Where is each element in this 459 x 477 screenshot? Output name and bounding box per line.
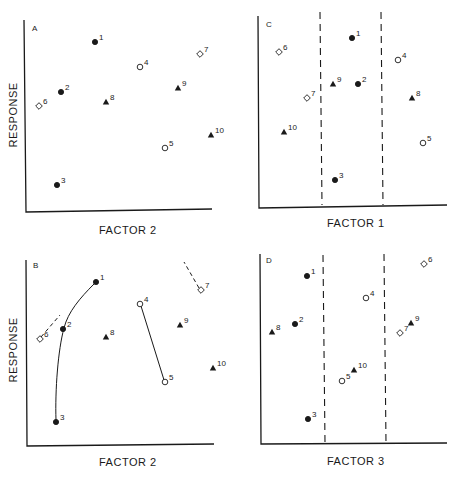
point-5-open-circle-icon <box>420 140 426 146</box>
point-label: 3 <box>61 176 66 185</box>
point-label: 5 <box>169 373 174 382</box>
point-1-filled-circle-icon <box>304 273 309 278</box>
point-8-filled-triangle-icon <box>103 334 109 340</box>
panel-a-label: A <box>32 24 38 33</box>
panel-a-axes <box>24 20 212 212</box>
point-label: 7 <box>204 45 209 54</box>
point-9-filled-triangle-icon <box>177 322 183 328</box>
point-7-open-diamond-icon <box>397 330 404 337</box>
point-label: 3 <box>60 413 65 422</box>
point-label: 4 <box>144 58 149 67</box>
point-8-filled-triangle-icon <box>409 95 415 101</box>
point-label: 1 <box>100 273 105 282</box>
point-2-filled-circle-icon <box>355 81 360 86</box>
point-label: 1 <box>356 29 361 38</box>
point-2-filled-circle-icon <box>58 89 63 94</box>
point-label: 1 <box>99 33 104 42</box>
point-5-open-circle-icon <box>162 145 168 151</box>
panel-b-dash-7 <box>184 262 199 288</box>
point-6-open-diamond-icon <box>36 103 43 110</box>
panel-c: C FACTOR 1 12345678910 <box>258 12 447 229</box>
panel-c-partition-1 <box>320 12 322 205</box>
point-3-filled-circle-icon <box>54 182 59 187</box>
point-label: 3 <box>312 410 317 419</box>
point-label: 10 <box>358 361 367 370</box>
point-3-filled-circle-icon <box>332 177 337 182</box>
point-3-filled-circle-icon <box>305 416 310 421</box>
point-label: 5 <box>427 134 432 143</box>
point-label: 5 <box>169 139 174 148</box>
point-label: 9 <box>415 314 420 323</box>
point-2-filled-circle-icon <box>60 326 65 331</box>
point-1-filled-circle-icon <box>93 279 98 284</box>
point-6-open-diamond-icon <box>276 49 283 56</box>
panel-d-partition-2 <box>384 254 386 443</box>
point-label: 9 <box>337 75 342 84</box>
panel-b: B FACTOR 2 RESPONSE 12345678910 <box>7 260 226 468</box>
point-5-open-circle-icon <box>162 379 168 385</box>
point-label: 6 <box>283 43 288 52</box>
panel-d-xlabel: FACTOR 3 <box>327 455 385 467</box>
point-label: 4 <box>370 289 375 298</box>
point-label: 8 <box>276 323 281 332</box>
point-4-open-circle-icon <box>137 64 143 70</box>
panel-d-points: 12345678910 <box>269 255 433 422</box>
point-4-open-circle-icon <box>395 57 401 63</box>
point-10-filled-triangle-icon <box>210 365 216 371</box>
panel-c-points: 12345678910 <box>276 29 432 183</box>
point-10-filled-triangle-icon <box>208 132 214 138</box>
point-9-filled-triangle-icon <box>408 320 414 326</box>
point-label: 8 <box>110 93 115 102</box>
panel-d: D FACTOR 3 12345678910 <box>260 254 447 467</box>
point-2-filled-circle-icon <box>292 321 297 326</box>
point-1-filled-circle-icon <box>349 35 354 40</box>
panel-a-ylabel: RESPONSE <box>7 82 19 147</box>
point-label: 4 <box>402 51 407 60</box>
panel-b-line-4-5 <box>141 306 164 380</box>
point-8-filled-triangle-icon <box>269 329 275 335</box>
panel-b-points: 12345678910 <box>37 273 227 425</box>
panel-b-xlabel: FACTOR 2 <box>99 456 157 468</box>
point-label: 6 <box>428 255 433 264</box>
panel-c-partition-2 <box>381 12 383 205</box>
point-4-open-circle-icon <box>363 295 369 301</box>
panel-d-label: D <box>266 256 272 265</box>
panel-a-xlabel: FACTOR 2 <box>99 224 157 236</box>
point-9-filled-triangle-icon <box>175 85 181 91</box>
point-1-filled-circle-icon <box>92 39 97 44</box>
point-label: 2 <box>362 75 367 84</box>
point-8-filled-triangle-icon <box>103 99 109 105</box>
point-label: 8 <box>416 89 421 98</box>
panel-d-partition-1 <box>323 255 325 443</box>
point-label: 8 <box>110 328 115 337</box>
point-label: 1 <box>311 267 316 276</box>
point-3-filled-circle-icon <box>53 419 58 424</box>
point-label: 10 <box>288 123 297 132</box>
point-label: 2 <box>299 315 304 324</box>
point-label: 6 <box>44 330 49 339</box>
point-7-open-diamond-icon <box>197 51 204 58</box>
panel-b-axes <box>26 260 214 446</box>
point-label: 6 <box>43 97 48 106</box>
panel-b-curve-1-2-3 <box>56 284 94 420</box>
panel-d-axes <box>260 254 447 444</box>
point-label: 7 <box>205 281 210 290</box>
point-label: 9 <box>182 79 187 88</box>
point-10-filled-triangle-icon <box>281 129 287 135</box>
panel-c-xlabel: FACTOR 1 <box>327 217 385 229</box>
figure-canvas: A FACTOR 2 RESPONSE 12345678910 C FACTOR… <box>0 0 459 477</box>
point-label: 2 <box>65 83 70 92</box>
point-label: 2 <box>67 320 72 329</box>
point-label: 10 <box>215 126 224 135</box>
point-label: 3 <box>339 171 344 180</box>
point-9-filled-triangle-icon <box>330 81 336 87</box>
panel-b-label: B <box>33 261 38 270</box>
point-5-open-circle-icon <box>339 378 345 384</box>
point-4-open-circle-icon <box>137 301 143 307</box>
point-6-open-diamond-icon <box>37 336 44 343</box>
point-label: 7 <box>311 89 316 98</box>
point-label: 5 <box>346 372 351 381</box>
point-label: 9 <box>184 316 189 325</box>
panel-a-points: 12345678910 <box>36 33 225 188</box>
point-6-open-diamond-icon <box>421 261 428 268</box>
